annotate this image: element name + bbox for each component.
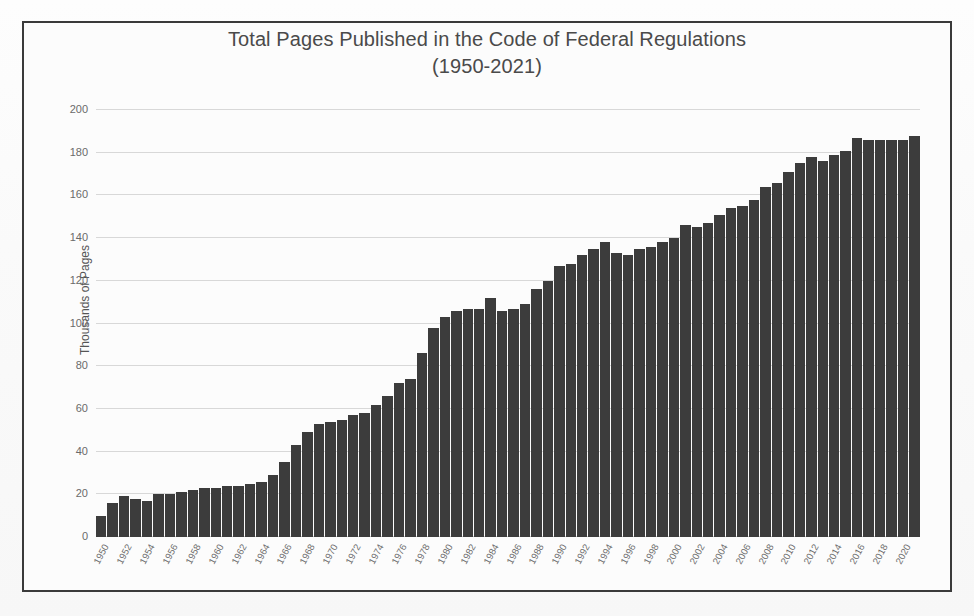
x-axis-tick-slot: 1990 — [554, 539, 564, 591]
y-axis-title: Thousands of Pages — [78, 245, 92, 355]
bar — [600, 242, 610, 537]
x-axis-tick-slot: 1968 — [302, 539, 312, 591]
bar — [337, 420, 347, 537]
bar — [302, 432, 312, 537]
x-axis-tick-slot: 1980 — [440, 539, 450, 591]
x-axis-tick-slot: 1962 — [233, 539, 243, 591]
x-axis-tick-slot — [245, 539, 255, 591]
x-axis-tick-slot — [772, 539, 782, 591]
bar — [451, 311, 461, 537]
x-axis-tick-slot — [314, 539, 324, 591]
x-axis-tick-slot: 2010 — [783, 539, 793, 591]
bar — [233, 486, 243, 537]
y-axis-tick-label: 60 — [76, 402, 88, 414]
x-axis-tick-slot — [382, 539, 392, 591]
bar — [394, 383, 404, 537]
page-background: Total Pages Published in the Code of Fed… — [0, 0, 974, 616]
bar — [749, 200, 759, 537]
bar — [279, 462, 289, 537]
x-axis-tick-slot: 1998 — [646, 539, 656, 591]
x-axis-tick-slot — [405, 539, 415, 591]
bar — [692, 227, 702, 537]
bar — [680, 225, 690, 537]
x-axis-tick-slot — [222, 539, 232, 591]
x-axis-tick-slot: 1982 — [463, 539, 473, 591]
x-axis-tick-slot: 1952 — [119, 539, 129, 591]
x-axis-tick-slot: 1958 — [188, 539, 198, 591]
x-axis-tick-slot: 2000 — [669, 539, 679, 591]
bar — [588, 249, 598, 537]
bar — [703, 223, 713, 537]
bar — [818, 161, 828, 537]
bar — [714, 215, 724, 537]
x-axis-tick-slot: 2014 — [829, 539, 839, 591]
x-axis-tick-slot — [359, 539, 369, 591]
x-axis-tick-labels: 1950195219541956195819601962196419661968… — [96, 539, 920, 591]
chart-title: Total Pages Published in the Code of Fed… — [22, 26, 952, 80]
bar — [554, 266, 564, 537]
x-axis-tick-slot — [634, 539, 644, 591]
bar — [875, 140, 885, 537]
x-axis-tick-slot — [268, 539, 278, 591]
x-axis-tick-slot — [337, 539, 347, 591]
x-axis-tick-slot — [520, 539, 530, 591]
x-axis-tick-slot — [795, 539, 805, 591]
x-axis-tick-slot — [657, 539, 667, 591]
x-axis-tick-slot — [107, 539, 117, 591]
y-axis-tick-label: 80 — [76, 359, 88, 371]
x-axis-tick-slot — [909, 539, 919, 591]
bar — [863, 140, 873, 537]
bar — [256, 482, 266, 538]
bar — [783, 172, 793, 537]
x-axis-tick-slot: 1970 — [325, 539, 335, 591]
bar — [325, 422, 335, 537]
plot-area: 020406080100120140160180200 — [96, 110, 920, 537]
bar — [840, 151, 850, 537]
bar — [268, 475, 278, 537]
x-axis-tick-slot: 1988 — [531, 539, 541, 591]
y-axis-tick-label: 40 — [76, 445, 88, 457]
bar — [497, 311, 507, 537]
bar-series — [96, 110, 920, 537]
bar — [474, 309, 484, 537]
bar — [485, 298, 495, 537]
bar — [531, 289, 541, 537]
bar — [806, 157, 816, 537]
x-axis-tick-slot: 1964 — [256, 539, 266, 591]
y-axis-tick-label: 0 — [82, 530, 88, 542]
bar — [657, 242, 667, 537]
bar — [669, 238, 679, 537]
x-axis-tick-slot — [680, 539, 690, 591]
bar — [130, 499, 140, 537]
x-axis-tick-slot — [703, 539, 713, 591]
x-axis-tick-slot — [543, 539, 553, 591]
x-axis-tick-slot: 1996 — [623, 539, 633, 591]
bar — [611, 253, 621, 537]
bar — [566, 264, 576, 537]
y-axis-tick-label: 100 — [70, 317, 88, 329]
bar — [829, 155, 839, 537]
bar — [726, 208, 736, 537]
bar — [211, 488, 221, 537]
bar — [371, 405, 381, 537]
x-axis-tick-slot: 1956 — [165, 539, 175, 591]
bar — [359, 413, 369, 537]
x-axis-tick-slot — [451, 539, 461, 591]
x-axis-tick-slot — [611, 539, 621, 591]
bar — [909, 136, 919, 537]
x-axis-tick-slot: 2012 — [806, 539, 816, 591]
x-axis-tick-slot: 1960 — [211, 539, 221, 591]
bar — [795, 163, 805, 537]
x-axis-tick-slot: 1950 — [96, 539, 106, 591]
bar — [291, 445, 301, 537]
x-axis-tick-slot: 2008 — [760, 539, 770, 591]
x-axis-tick-slot — [818, 539, 828, 591]
x-axis-tick-slot — [497, 539, 507, 591]
bar — [623, 255, 633, 537]
x-axis-tick-slot: 1984 — [485, 539, 495, 591]
x-axis-tick-slot — [749, 539, 759, 591]
x-axis-tick-slot: 2006 — [737, 539, 747, 591]
x-axis-tick-slot — [566, 539, 576, 591]
y-axis-tick-label: 20 — [76, 487, 88, 499]
bar — [508, 309, 518, 537]
